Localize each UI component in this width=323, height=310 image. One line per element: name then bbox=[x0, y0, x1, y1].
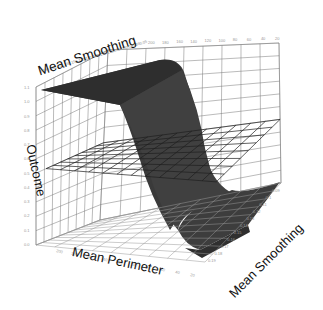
z-tick-label: 1.1 bbox=[24, 85, 30, 90]
top-right-tick-label: 120 bbox=[204, 38, 211, 43]
z-tick-label: 0.1 bbox=[24, 228, 30, 233]
right-tick-label: 0.1 bbox=[266, 195, 272, 200]
top-right-tick-label: 180 bbox=[162, 40, 169, 45]
right-tick-label: 0.19 bbox=[208, 258, 217, 263]
right-tick-label: 0.16 bbox=[227, 237, 236, 242]
z-tick-label: 0.9 bbox=[24, 114, 30, 119]
top-tick-label: 0.05 bbox=[139, 39, 149, 46]
right-tick-label: 0.17 bbox=[221, 244, 230, 249]
right-tick-label: 0.15 bbox=[234, 230, 243, 235]
z-tick-label: 0.0 bbox=[24, 242, 30, 247]
bottom-tick-label: 20 bbox=[190, 272, 196, 278]
z-tick-label: 0.3 bbox=[24, 199, 30, 204]
right-tick-label: 0.13 bbox=[246, 216, 255, 221]
top-right-tick-label: 60 bbox=[247, 37, 252, 42]
right-tick-label: 0.09 bbox=[272, 188, 281, 193]
bottom-tick-label: 200 bbox=[56, 248, 64, 254]
right-tick-label: 0.11 bbox=[259, 202, 267, 207]
right-tick-label: 0.18 bbox=[214, 251, 223, 256]
top-right-tick-label: 20 bbox=[275, 36, 280, 41]
top-right-tick-label: 100 bbox=[219, 38, 226, 43]
right-tick-label: 0.12 bbox=[253, 209, 262, 214]
top-right-tick-label: 140 bbox=[190, 39, 197, 44]
bottom-tick-label: 40 bbox=[175, 269, 181, 275]
z-tick-label: 0.2 bbox=[24, 213, 30, 218]
z-tick-label: 0.8 bbox=[24, 128, 30, 133]
top-right-tick-label: 80 bbox=[233, 37, 238, 42]
top-right-tick-label: 40 bbox=[261, 36, 266, 41]
z-tick-label: 1.0 bbox=[24, 99, 30, 104]
top-right-tick-label: 200 bbox=[148, 40, 155, 45]
right-tick-label: 0.14 bbox=[240, 223, 249, 228]
top-right-tick-label: 160 bbox=[176, 39, 183, 44]
z-tick-label: 0.4 bbox=[24, 185, 30, 190]
